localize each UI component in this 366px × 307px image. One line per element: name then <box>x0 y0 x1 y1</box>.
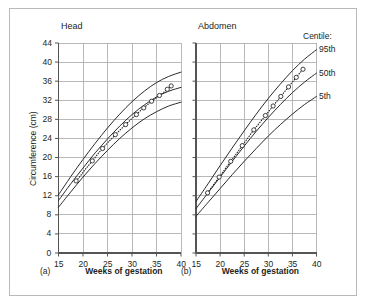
panel-title-b: Abdomen <box>198 21 237 31</box>
centile-curve-b-95th <box>196 50 317 202</box>
x-axis-title-a: Weeks of gestation <box>85 266 162 276</box>
x-axis-title-b: Weeks of gestation <box>222 266 299 276</box>
y-tick-label-a-8: 8 <box>47 209 52 219</box>
legend-item-95th: 95th <box>319 44 336 54</box>
x-tick-label-a-15: 15 <box>54 259 63 269</box>
centile-curve-a-5th <box>59 102 182 207</box>
x-tick-label-b-15: 15 <box>192 259 201 269</box>
legend-item-5th: 5th <box>319 91 331 101</box>
y-tick-label-a-36: 36 <box>43 76 52 86</box>
centile-curve-b-50th <box>196 73 317 209</box>
y-tick-label-a-24: 24 <box>43 133 52 143</box>
y-axis-title: Circumference (cm) <box>28 111 38 186</box>
centile-curve-a-50th <box>59 87 182 200</box>
legend-item-50th: 50th <box>319 68 336 78</box>
y-tick-label-a-28: 28 <box>43 114 52 124</box>
y-tick-label-a-40: 40 <box>43 57 52 67</box>
panel-letter-a: (a) <box>40 266 50 276</box>
x-tick-label-b-40: 40 <box>312 259 321 269</box>
y-tick-label-a-12: 12 <box>43 190 52 200</box>
y-tick-label-a-4: 4 <box>47 228 52 238</box>
legend-heading: Centile: <box>303 31 332 41</box>
y-tick-label-a-20: 20 <box>43 152 52 162</box>
y-tick-label-a-32: 32 <box>43 95 52 105</box>
panel-letter-b: (b) <box>181 266 191 276</box>
measured-markers-a <box>74 84 173 183</box>
y-tick-label-a-16: 16 <box>43 171 52 181</box>
y-tick-label-a-0: 0 <box>47 248 52 258</box>
y-tick-label-a-44: 44 <box>43 38 52 48</box>
panel-title-a: Head <box>61 21 83 31</box>
fetal-growth-chart-figure: 048121620242832364044152025303540Head(a)… <box>0 0 366 307</box>
